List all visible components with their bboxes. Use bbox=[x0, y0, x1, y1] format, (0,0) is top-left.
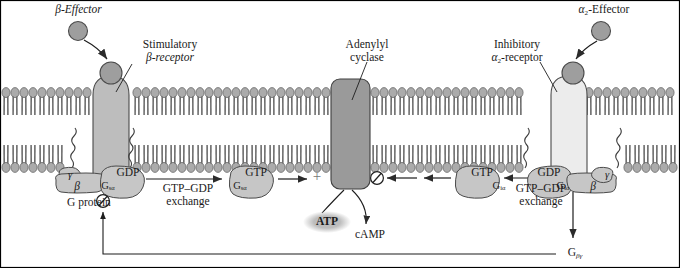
beta-subunit-label-left: β bbox=[70, 180, 84, 193]
alpha2-effector-ball[interactable] bbox=[592, 22, 611, 41]
inhibitory-receptor-label-line2: α2-receptor bbox=[468, 51, 566, 65]
stimulatory-receptor-label: Stimulatory β-receptor bbox=[122, 38, 218, 64]
gtp-label-left-free: GTP bbox=[240, 166, 272, 179]
alpha2-effector-label: α2-Effector bbox=[560, 3, 648, 18]
g-beta-gamma-label: Gβγ bbox=[558, 246, 592, 261]
figure-canvas: β-Effector Stimulatory β-receptor Adenyl… bbox=[0, 0, 680, 268]
inhibitory-receptor-label-line1: Inhibitory bbox=[468, 38, 566, 51]
g-protein-label: G protein bbox=[58, 196, 120, 209]
inhibition-symbol-right bbox=[371, 172, 384, 185]
beta-effector-ball[interactable] bbox=[69, 22, 88, 41]
adenylyl-cyclase-label-line1: Adenylyl bbox=[322, 38, 412, 51]
beta-effector-bound-ball bbox=[100, 62, 122, 84]
atp-label: ATP bbox=[310, 215, 344, 228]
exchange-label-left: GTP–GDP exchange bbox=[152, 182, 224, 208]
adenylyl-cyclase-label-line2: cyclase bbox=[322, 51, 412, 64]
exchange-label-right-line2: exchange bbox=[505, 195, 577, 208]
exchange-label-left-line2: exchange bbox=[152, 195, 224, 208]
beta-subunit-label-right: β bbox=[586, 180, 600, 193]
g-alpha-s-label-free: Gsα bbox=[228, 180, 252, 192]
adenylyl-cyclase-label: Adenylyl cyclase bbox=[322, 38, 412, 64]
gdp-label-left: GDP bbox=[112, 166, 144, 179]
inhibitory-receptor-label: Inhibitory α2-receptor bbox=[468, 38, 566, 65]
exchange-label-left-line1: GTP–GDP bbox=[152, 182, 224, 195]
camp-label: cAMP bbox=[350, 228, 390, 241]
g-alpha-s-label-left: Gsα bbox=[96, 180, 120, 192]
gtp-label-right-free: GTP bbox=[466, 166, 498, 179]
stimulatory-receptor-label-line1: Stimulatory bbox=[122, 38, 218, 51]
gamma-subunit-label-right: γ bbox=[601, 169, 613, 181]
stimulatory-receptor-label-line2: β-receptor bbox=[122, 51, 218, 64]
gamma-subunit-label-left: γ bbox=[64, 169, 76, 181]
alpha2-effector-bound-ball bbox=[562, 62, 584, 84]
plus-sign-activation: + bbox=[310, 168, 324, 185]
gdp-label-right: GDP bbox=[533, 166, 565, 179]
g-alpha-i-label-right: Giα bbox=[551, 180, 575, 192]
beta-effector-label: β-Effector bbox=[36, 3, 121, 16]
adenylyl-cyclase[interactable] bbox=[331, 79, 370, 189]
